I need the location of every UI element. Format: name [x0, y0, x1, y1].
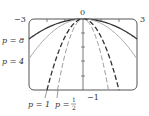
p1-leader-line [45, 90, 47, 98]
y-bottom-label: −1 [87, 93, 99, 102]
x-max-label: 3 [140, 15, 145, 24]
curve-label-p1: p = 1 [28, 100, 50, 109]
y-top-label: 0 [80, 8, 85, 17]
phalf-leader-line [57, 90, 58, 98]
curve-label-phalf-numerator: 1 [72, 96, 76, 103]
curve-label-p4: p = 4 [2, 57, 24, 66]
curve-label-phalf-prefix: p = [55, 100, 69, 109]
parabola-family-diagram: 0 −3 3 −1 p = 8 p = 4 p = 1 p = 1 2 [0, 0, 149, 116]
curve-label-phalf: p = 1 2 [55, 96, 76, 111]
x-min-label: −3 [14, 15, 26, 24]
curve-label-phalf-denominator: 2 [72, 104, 76, 111]
curve-label-p8: p = 8 [2, 36, 24, 45]
